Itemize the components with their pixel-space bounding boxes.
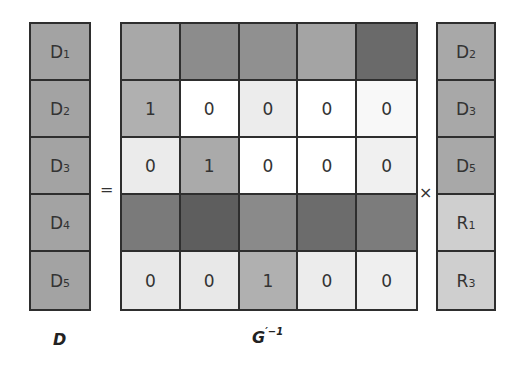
matrix-cell-r2-c1: 1 [122, 81, 181, 138]
vector-cell-d5: D5 [31, 252, 89, 309]
cell-label: D [50, 156, 63, 176]
cell-subscript: 3 [468, 277, 475, 290]
matrix-cell-r3-c2: 1 [181, 138, 240, 195]
matrix-cell-r3-c1: 0 [122, 138, 181, 195]
matrix-cell-r3-c3: 0 [240, 138, 299, 195]
cell-subscript: 2 [469, 48, 476, 61]
cell-label: D [50, 213, 63, 233]
matrix-cell-r4-c5 [357, 195, 416, 252]
matrix-cell-r5-c3: 1 [240, 252, 299, 309]
matrix-cell-r2-c5: 0 [357, 81, 416, 138]
cell-label: D [456, 156, 469, 176]
cell-subscript: 2 [63, 105, 70, 118]
vector-cell-1: D3 [438, 81, 494, 138]
matrix-cell-r4-c4 [298, 195, 357, 252]
cell-subscript: 1 [468, 219, 475, 232]
matrix-label-base: G [252, 328, 265, 347]
matrix-cell-r5-c5: 0 [357, 252, 416, 309]
vector-cell-0: D2 [438, 24, 494, 81]
matrix-cell-r1-c4 [298, 24, 357, 81]
inverse-generator-matrix: 100000100000100 [120, 22, 418, 311]
cell-subscript: 5 [63, 277, 70, 290]
cell-subscript: 1 [63, 48, 70, 61]
cell-subscript: 4 [63, 219, 70, 232]
matrix-cell-r2-c2: 0 [181, 81, 240, 138]
matrix-label-superscript: ′−1 [265, 326, 283, 337]
cell-label: R [457, 271, 469, 291]
matrix-cell-r3-c4: 0 [298, 138, 357, 195]
cell-label: D [456, 42, 469, 62]
cell-label: D [50, 42, 63, 62]
vector-cell-d4: D4 [31, 195, 89, 252]
vector-d-label: D [53, 330, 66, 349]
surviving-blocks-vector: D2 D3 D5 R1 R3 [436, 22, 496, 311]
matrix-cell-r1-c1 [122, 24, 181, 81]
vector-cell-d1: D1 [31, 24, 89, 81]
vector-cell-4: R3 [438, 252, 494, 309]
vector-cell-3: R1 [438, 195, 494, 252]
matrix-cell-r5-c2: 0 [181, 252, 240, 309]
vector-cell-d3: D3 [31, 138, 89, 195]
matrix-label: G′−1 [252, 328, 283, 347]
vector-cell-d2: D2 [31, 81, 89, 138]
matrix-cell-r1-c5 [357, 24, 416, 81]
matrix-cell-r3-c5: 0 [357, 138, 416, 195]
matrix-cell-r5-c1: 0 [122, 252, 181, 309]
cell-label: R [457, 213, 469, 233]
matrix-cell-r4-c3 [240, 195, 299, 252]
matrix-cell-r5-c4: 0 [298, 252, 357, 309]
cell-label: D [456, 99, 469, 119]
equals-sign: = [100, 180, 113, 199]
data-vector-d: D1 D2 D3 D4 D5 [29, 22, 91, 311]
matrix-cell-r2-c4: 0 [298, 81, 357, 138]
cell-subscript: 5 [469, 162, 476, 175]
matrix-cell-r1-c2 [181, 24, 240, 81]
matrix-cell-r1-c3 [240, 24, 299, 81]
cell-subscript: 3 [469, 105, 476, 118]
cell-label: D [50, 271, 63, 291]
matrix-cell-r2-c3: 0 [240, 81, 299, 138]
cell-subscript: 3 [63, 162, 70, 175]
matrix-cell-r4-c1 [122, 195, 181, 252]
multiply-sign: × [419, 183, 432, 202]
vector-cell-2: D5 [438, 138, 494, 195]
cell-label: D [50, 99, 63, 119]
matrix-cell-r4-c2 [181, 195, 240, 252]
